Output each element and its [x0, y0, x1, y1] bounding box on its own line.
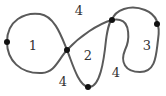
- region-label-3: 3: [143, 39, 151, 52]
- vertex-dot-center-crossing: [64, 47, 70, 53]
- region-label-4-bottom-left: 4: [59, 75, 67, 88]
- vertex-dot-left: [4, 39, 10, 45]
- region-label-2: 2: [84, 49, 92, 62]
- vertex-dot-top-crossing: [109, 17, 115, 23]
- vertex-dot-right: [154, 21, 160, 27]
- vertex-dot-bottom: [85, 84, 91, 90]
- region-label-4-bottom-right: 4: [112, 66, 120, 79]
- region-label-1: 1: [29, 39, 37, 52]
- region-label-4-top: 4: [75, 4, 83, 17]
